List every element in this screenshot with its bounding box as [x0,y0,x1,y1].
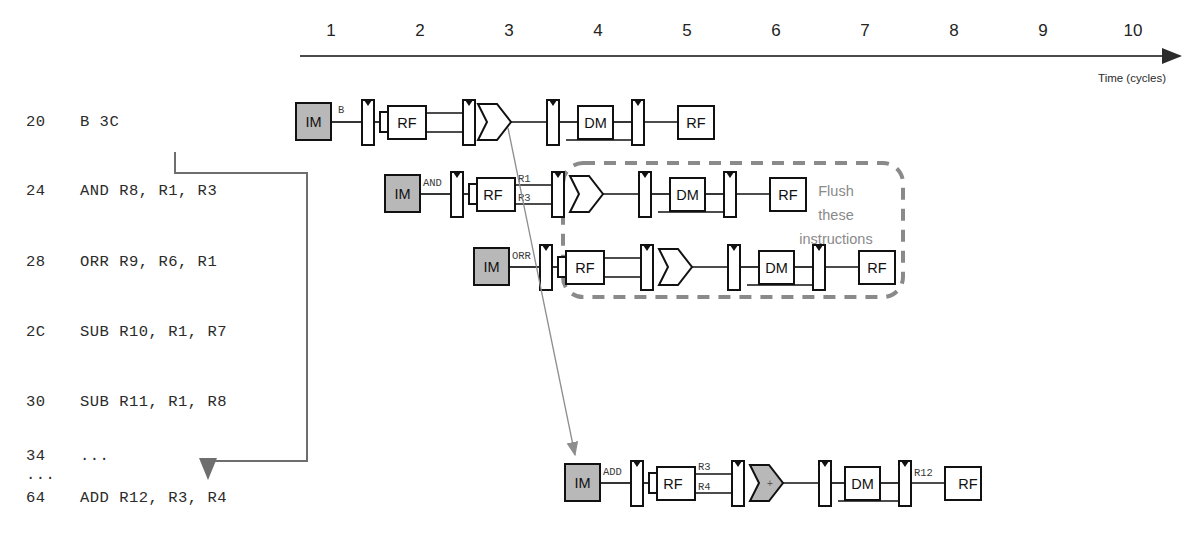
instr-text-5: ... [80,447,109,465]
instr-text-2: ORR R9, R6, R1 [80,253,217,271]
stage-rf-writeback-label: RF [778,187,797,203]
cycle-tick-7: 7 [860,21,869,40]
flush-label-line2: these [818,207,853,223]
stage-rf-writeback-label: RF [686,115,705,131]
instr-addr-2: 28 [26,253,46,271]
stage-alu-shape [478,104,511,140]
pipeline-register [631,461,643,506]
pipeline-register [540,245,552,290]
instr-text-7: ADD R12, R3, R4 [80,489,227,507]
cycle-tick-10: 10 [1124,21,1143,40]
pipeline-register [552,172,564,217]
pipeline-register [547,100,559,145]
pipeline-diagram-figure: 1 2 3 4 5 6 7 8 9 10 Time (cycles) 20 B … [0,0,1204,542]
pipeline-register [632,100,644,145]
wire-label-r3: R3 [518,192,531,204]
instr-addr-1: 24 [26,182,46,200]
instr-text-0: B 3C [80,113,119,131]
pipeline-register [813,245,825,290]
stage-rf-label: RF [397,115,416,131]
wire-label-r4: R4 [698,481,711,493]
stage-dm-label: DM [676,187,699,203]
pipeline-register [362,100,374,145]
instr-addr-5: 34 [26,447,46,465]
cycle-tick-6: 6 [771,21,780,40]
pipeline-register [732,461,744,506]
cycle-tick-2: 2 [415,21,424,40]
pipeline-register [819,461,831,506]
instr-addr-3: 2C [26,323,46,341]
pipeline-register [463,100,475,145]
stage-dm-label: DM [584,115,607,131]
pipeline-register [451,172,463,217]
diagram-svg: 1 2 3 4 5 6 7 8 9 10 Time (cycles) 20 B … [0,0,1204,542]
instr-addr-0: 20 [26,113,46,131]
flush-label-line3: instructions [799,231,872,247]
pipeline-register [724,172,736,217]
pipeline-register [899,461,911,506]
stage-im-label: IM [394,186,410,202]
wire-label-opcode: ORR [512,250,532,262]
cycle-tick-4: 4 [593,21,602,40]
pipeline-row-branch: IM B RF [296,100,714,145]
wire-label-opcode: AND [423,177,442,189]
stage-alu-shape [570,176,603,212]
stage-im-label: IM [305,114,321,130]
cycle-tick-8: 8 [949,21,958,40]
stage-im-label: IM [574,475,590,491]
wire-label-r3: R3 [698,461,711,473]
cycle-tick-5: 5 [682,21,691,40]
instr-addr-4: 30 [26,393,46,411]
stage-dm-label: DM [851,476,874,492]
stage-rf-writeback-label: RF [958,476,977,492]
pipeline-row-and: IM AND RF R1 R3 DM [385,172,806,217]
pipeline-register [728,245,740,290]
instr-text-1: AND R8, R1, R3 [80,182,217,200]
instr-text-4: SUB R11, R1, R8 [80,393,227,411]
cycle-tick-3: 3 [504,21,513,40]
cycle-tick-9: 9 [1038,21,1047,40]
flush-label-line1: Flush [818,183,853,199]
stage-im-label: IM [483,259,499,275]
instr-addr-6: ... [26,466,55,484]
axis-label-time: Time (cycles) [1098,72,1166,84]
pipeline-register [639,172,651,217]
wire-label-opcode: ADD [603,466,622,478]
stage-dm-label: DM [765,260,788,276]
wire-label-r12: R12 [914,467,933,479]
wire-label-opcode: B [338,104,344,116]
cycle-tick-1: 1 [326,21,335,40]
stage-alu-shape [659,249,692,285]
branch-target-connector [175,152,307,478]
pipeline-register [641,245,653,290]
stage-rf-writeback-label: RF [867,260,886,276]
stage-rf-label: RF [575,260,594,276]
alu-operation-label: + [767,478,773,489]
time-axis: 1 2 3 4 5 6 7 8 9 10 Time (cycles) [300,21,1180,84]
stage-rf-label: RF [663,476,682,492]
instr-text-3: SUB R10, R1, R7 [80,323,227,341]
instr-addr-7: 64 [26,489,46,507]
pipeline-row-add: IM ADD RF R3 R4 + DM [565,461,981,506]
stage-rf-label: RF [483,187,502,203]
